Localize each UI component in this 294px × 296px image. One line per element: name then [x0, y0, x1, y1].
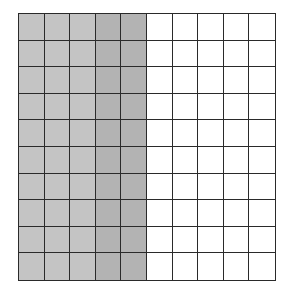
grid-cell — [224, 174, 250, 201]
grid-cell — [224, 227, 250, 254]
shaded-grid-cell — [45, 67, 71, 94]
grid-cell — [147, 227, 173, 254]
grid-cell — [173, 120, 199, 147]
shaded-grid-cell — [121, 253, 147, 280]
shaded-grid-cell — [70, 120, 96, 147]
shaded-grid-cell — [19, 227, 45, 254]
shaded-grid-cell — [121, 94, 147, 121]
grid-cell — [249, 200, 275, 227]
shaded-grid-cell — [121, 14, 147, 41]
grid-cell — [173, 147, 199, 174]
shaded-grid-cell — [121, 200, 147, 227]
grid-cell — [198, 120, 224, 147]
grid-cell — [224, 94, 250, 121]
grid-cell — [173, 67, 199, 94]
grid-cell — [224, 200, 250, 227]
grid-cell — [147, 147, 173, 174]
shaded-grid-cell — [121, 227, 147, 254]
grid-cell — [198, 14, 224, 41]
grid-cell — [198, 200, 224, 227]
grid-cell — [198, 41, 224, 68]
shaded-grid-cell — [121, 120, 147, 147]
grid-cell — [224, 120, 250, 147]
grid-cell — [147, 67, 173, 94]
grid-cell — [249, 14, 275, 41]
shaded-grid-cell — [45, 253, 71, 280]
grid-cell — [224, 14, 250, 41]
grid-cell — [249, 174, 275, 201]
shaded-grid-cell — [19, 200, 45, 227]
hundred-grid — [18, 13, 276, 281]
shaded-grid-cell — [96, 41, 122, 68]
grid-cell — [249, 41, 275, 68]
shaded-grid-cell — [70, 14, 96, 41]
shaded-grid-cell — [70, 227, 96, 254]
shaded-grid-cell — [19, 14, 45, 41]
grid-cell — [224, 147, 250, 174]
grid-cell — [249, 94, 275, 121]
shaded-grid-cell — [70, 67, 96, 94]
shaded-grid-cell — [19, 174, 45, 201]
shaded-grid-cell — [96, 94, 122, 121]
grid-cell — [173, 14, 199, 41]
grid-cell — [147, 200, 173, 227]
grid-cell — [147, 14, 173, 41]
shaded-grid-cell — [96, 147, 122, 174]
shaded-grid-cell — [45, 94, 71, 121]
grid-cell — [173, 227, 199, 254]
shaded-grid-cell — [19, 253, 45, 280]
grid-cell — [224, 67, 250, 94]
grid-cell — [173, 41, 199, 68]
shaded-grid-cell — [96, 14, 122, 41]
grid-cell — [173, 174, 199, 201]
shaded-grid-cell — [96, 227, 122, 254]
grid-cell — [198, 227, 224, 254]
shaded-grid-cell — [45, 227, 71, 254]
shaded-grid-cell — [45, 120, 71, 147]
shaded-grid-cell — [19, 120, 45, 147]
grid-cell — [147, 41, 173, 68]
grid-cell — [249, 67, 275, 94]
shaded-grid-cell — [121, 174, 147, 201]
grid-cell — [173, 200, 199, 227]
grid-cell — [249, 147, 275, 174]
grid-cell — [198, 67, 224, 94]
shaded-grid-cell — [96, 253, 122, 280]
grid-cell — [198, 253, 224, 280]
shaded-grid-cell — [45, 174, 71, 201]
shaded-grid-cell — [96, 67, 122, 94]
grid-cell — [198, 147, 224, 174]
shaded-grid-cell — [19, 67, 45, 94]
grid-cell — [249, 120, 275, 147]
grid-cell — [198, 174, 224, 201]
shaded-grid-cell — [70, 253, 96, 280]
grid-cell — [249, 227, 275, 254]
shaded-grid-cell — [70, 94, 96, 121]
shaded-grid-cell — [45, 14, 71, 41]
shaded-grid-cell — [70, 41, 96, 68]
grid-cell — [224, 41, 250, 68]
shaded-grid-cell — [45, 200, 71, 227]
grid-cell — [147, 120, 173, 147]
grid-cell — [173, 253, 199, 280]
shaded-grid-cell — [19, 147, 45, 174]
shaded-grid-cell — [45, 147, 71, 174]
shaded-grid-cell — [96, 120, 122, 147]
shaded-grid-cell — [19, 41, 45, 68]
shaded-grid-cell — [70, 200, 96, 227]
grid-cell — [224, 253, 250, 280]
grid-cell — [173, 94, 199, 121]
shaded-grid-cell — [96, 174, 122, 201]
grid-cell — [147, 253, 173, 280]
shaded-grid-cell — [19, 94, 45, 121]
shaded-grid-cell — [121, 67, 147, 94]
grid-cell — [147, 94, 173, 121]
grid-cell — [147, 174, 173, 201]
shaded-grid-cell — [96, 200, 122, 227]
shaded-grid-cell — [45, 41, 71, 68]
shaded-grid-cell — [70, 147, 96, 174]
grid-cell — [249, 253, 275, 280]
grid-cell — [198, 94, 224, 121]
shaded-grid-cell — [121, 41, 147, 68]
shaded-grid-cell — [121, 147, 147, 174]
